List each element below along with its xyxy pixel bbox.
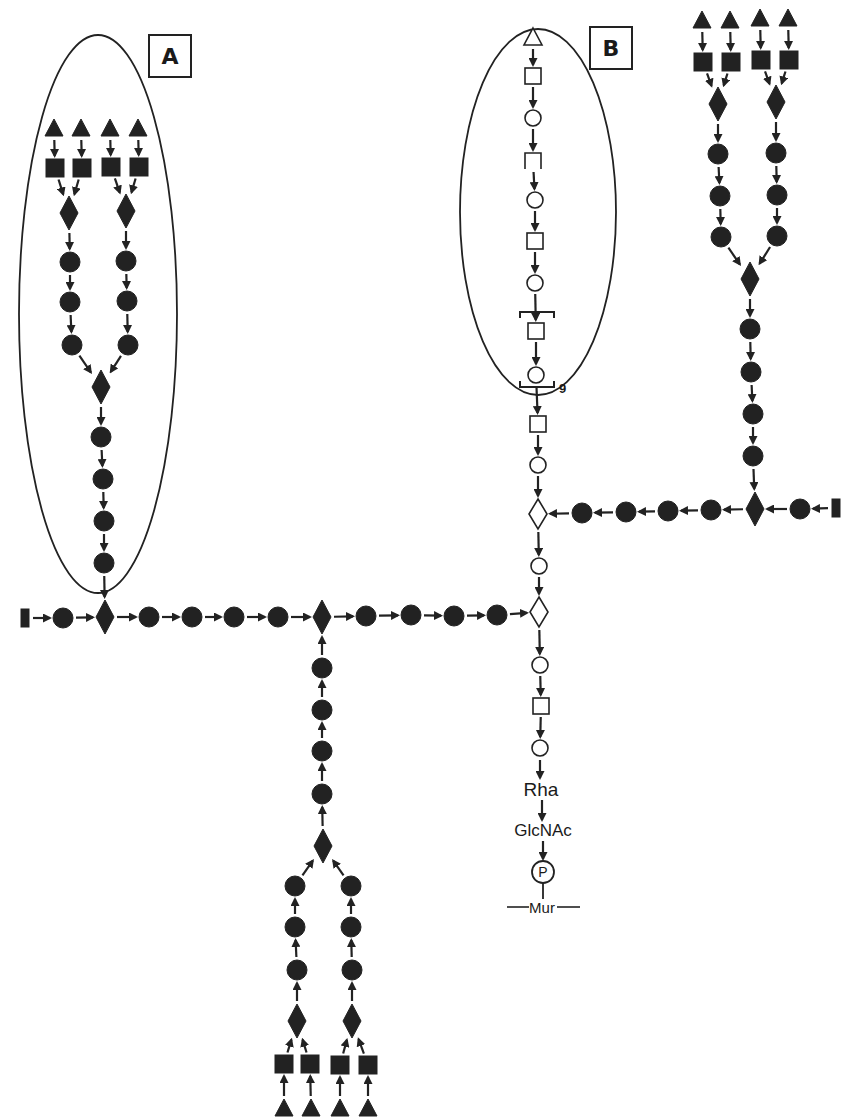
- filled-circle-icon: [60, 252, 80, 272]
- linkage-arrow: [303, 1040, 307, 1053]
- filled-diamond-icon: [96, 600, 114, 634]
- filled-circle-icon: [91, 427, 111, 447]
- filled-circle-icon: [93, 469, 113, 489]
- linkage-arrow: [74, 180, 78, 195]
- filled-circle-icon: [342, 960, 362, 980]
- filled-triangle-icon: [275, 1099, 293, 1116]
- filled-triangle-icon: [129, 119, 147, 136]
- open-square-icon: [527, 233, 543, 249]
- filled-diamond-icon: [767, 85, 785, 119]
- filled-diamond-icon: [741, 262, 759, 296]
- filled-circle-icon: [658, 501, 678, 521]
- linkage-arrow: [79, 356, 90, 373]
- filled-triangle-icon: [331, 1099, 349, 1116]
- open-square-icon: [525, 153, 541, 169]
- filled-triangle-icon: [72, 119, 90, 136]
- open-circle-icon: [527, 192, 543, 208]
- open-circle-icon: [532, 657, 548, 673]
- filled-triangle-icon: [693, 11, 711, 28]
- filled-circle-icon: [312, 784, 332, 804]
- filled-circle-icon: [139, 607, 159, 627]
- filled-circle-icon: [341, 876, 361, 896]
- linkage-arrow: [287, 1040, 291, 1053]
- linkage-arrow: [724, 73, 728, 85]
- open-square-icon: [528, 323, 544, 339]
- open-square-icon: [530, 416, 546, 432]
- filled-circle-icon: [740, 319, 760, 339]
- open-circle-icon: [525, 110, 541, 126]
- filled-triangle-icon: [359, 1099, 377, 1116]
- filled-circle-icon: [743, 446, 763, 466]
- filled-circle-icon: [224, 607, 244, 627]
- linkage-arrow: [535, 294, 536, 320]
- linkage-arrow: [296, 940, 297, 957]
- filled-circle-icon: [312, 700, 332, 720]
- filled-circle-icon: [62, 335, 82, 355]
- filled-circle-icon: [341, 917, 361, 937]
- filled-circle-icon: [60, 292, 80, 312]
- filled-circle-icon: [287, 960, 307, 980]
- filled-diamond-icon: [117, 194, 135, 228]
- filled-square-icon: [359, 1056, 377, 1074]
- ellipse-A: [19, 35, 177, 593]
- linkage-arrow: [302, 861, 312, 876]
- filled-circle-icon: [743, 404, 763, 424]
- linkage-arrow: [536, 386, 537, 413]
- linkage-arrow: [102, 450, 103, 466]
- filled-square-icon: [301, 1055, 319, 1073]
- linkage-arrow: [765, 71, 769, 84]
- filled-circle-icon: [487, 605, 507, 625]
- filled-circle-icon: [116, 251, 136, 271]
- open-circle-icon: [528, 367, 544, 383]
- nodes-layer: [21, 9, 840, 1116]
- filled-square-icon: [46, 159, 64, 177]
- filled-circle-icon: [767, 226, 787, 246]
- muramic-acid-label: Mur: [529, 899, 555, 916]
- linkage-arrow: [753, 469, 754, 489]
- phosphate-label: P: [538, 864, 547, 880]
- filled-circle-icon: [53, 608, 73, 628]
- linkage-arrow: [343, 1040, 347, 1054]
- filled-diamond-icon: [746, 492, 764, 526]
- filled-circle-icon: [444, 606, 464, 626]
- filled-square-icon: [73, 159, 91, 177]
- filled-circle-icon: [356, 606, 376, 626]
- filled-square-icon: [694, 53, 712, 71]
- filled-square-icon: [331, 1056, 349, 1074]
- linkage-arrow: [111, 356, 121, 372]
- filled-circle-icon: [790, 499, 810, 519]
- panel-label-b: B: [589, 26, 633, 70]
- repeat-count-subscript: 9: [559, 381, 566, 396]
- filled-circle-icon: [741, 362, 761, 382]
- linkage-arrow: [719, 167, 720, 183]
- filled-diamond-icon: [314, 829, 332, 863]
- linkage-arrow: [132, 179, 136, 193]
- filled-triangle-icon: [751, 9, 769, 26]
- filled-square-icon: [752, 51, 770, 69]
- filled-triangle-icon: [779, 9, 797, 26]
- filled-circle-icon: [767, 185, 787, 205]
- filled-triangle-icon: [101, 119, 119, 136]
- filled-circle-icon: [766, 143, 786, 163]
- linkage-arrow: [760, 247, 770, 264]
- filled-circle-icon: [182, 607, 202, 627]
- filled-circle-icon: [708, 144, 728, 164]
- open-circle-icon: [527, 275, 543, 291]
- filled-square-icon: [102, 158, 120, 176]
- filled-circle-icon: [401, 605, 421, 625]
- glycan-structure-diagram: 9 P: [0, 0, 860, 1118]
- linkage-arrow: [534, 172, 535, 189]
- rhamnose-label: Rha: [524, 779, 559, 801]
- edges-layer: [33, 30, 828, 1096]
- linkage-arrow: [707, 73, 711, 86]
- filled-square-icon: [130, 158, 148, 176]
- linkage-arrow: [71, 315, 72, 332]
- filled-diamond-icon: [92, 370, 110, 404]
- filled-circle-icon: [572, 503, 592, 523]
- linkage-arrow: [510, 613, 527, 614]
- linkage-arrow: [782, 71, 786, 83]
- linkage-arrow: [752, 385, 753, 401]
- filled-circle-icon: [285, 917, 305, 937]
- filled-triangle-icon: [721, 11, 739, 28]
- linkage-arrow: [333, 861, 343, 876]
